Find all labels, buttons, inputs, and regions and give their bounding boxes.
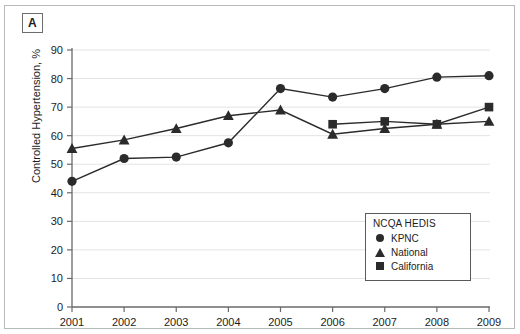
datapoint-kpnc-2008 — [432, 73, 441, 82]
datapoint-california-2009 — [485, 103, 494, 112]
chart-figure: A Controlled Hypertension, % 01020304050… — [0, 0, 520, 334]
series-line-national — [72, 110, 489, 149]
datapoint-california-2006 — [328, 120, 337, 129]
x-tick-label-2004: 2004 — [216, 316, 240, 328]
y-tick-label-90: 90 — [51, 44, 63, 56]
y-tick-label-20: 20 — [51, 244, 63, 256]
datapoint-kpnc-2007 — [380, 84, 389, 93]
x-tick-label-2003: 2003 — [164, 316, 188, 328]
x-tick-label-2002: 2002 — [112, 316, 136, 328]
x-tick-label-2007: 2007 — [373, 316, 397, 328]
datapoint-kpnc-2009 — [484, 71, 493, 80]
triangle-marker-icon — [373, 248, 387, 257]
datapoint-kpnc-2005 — [276, 84, 285, 93]
plot-area: 0102030405060708090200120022003200420052… — [0, 0, 520, 334]
series-line-california — [333, 107, 489, 124]
datapoint-kpnc-2002 — [120, 154, 129, 163]
x-tick-label-2001: 2001 — [60, 316, 84, 328]
y-tick-label-70: 70 — [51, 101, 63, 113]
circle-marker-icon — [373, 234, 387, 242]
legend-label-california: California — [391, 261, 433, 272]
y-tick-label-80: 80 — [51, 73, 63, 85]
datapoint-california-2008 — [433, 120, 442, 129]
datapoint-kpnc-2001 — [67, 177, 76, 186]
x-tick-label-2009: 2009 — [477, 316, 501, 328]
y-tick-label-10: 10 — [51, 272, 63, 284]
datapoint-national-2005 — [275, 105, 286, 115]
datapoint-california-2007 — [380, 117, 389, 126]
legend-item-kpnc: KPNC — [373, 231, 470, 245]
datapoint-kpnc-2004 — [224, 138, 233, 147]
x-tick-label-2005: 2005 — [268, 316, 292, 328]
x-tick-label-2006: 2006 — [320, 316, 344, 328]
datapoint-kpnc-2003 — [172, 152, 181, 161]
legend-label-kpnc: KPNC — [391, 233, 419, 244]
legend-item-national: National — [373, 245, 470, 259]
y-tick-label-30: 30 — [51, 215, 63, 227]
y-tick-label-0: 0 — [57, 301, 63, 313]
legend-title: NCQA HEDIS — [373, 218, 470, 229]
x-tick-label-2008: 2008 — [425, 316, 449, 328]
y-tick-label-60: 60 — [51, 130, 63, 142]
square-marker-icon — [373, 262, 387, 270]
y-tick-label-40: 40 — [51, 187, 63, 199]
legend-item-california: California — [373, 259, 470, 273]
legend-label-national: National — [391, 247, 428, 258]
legend: NCQA HEDIS KPNC National California — [365, 213, 471, 281]
y-tick-label-50: 50 — [51, 158, 63, 170]
datapoint-kpnc-2006 — [328, 93, 337, 102]
